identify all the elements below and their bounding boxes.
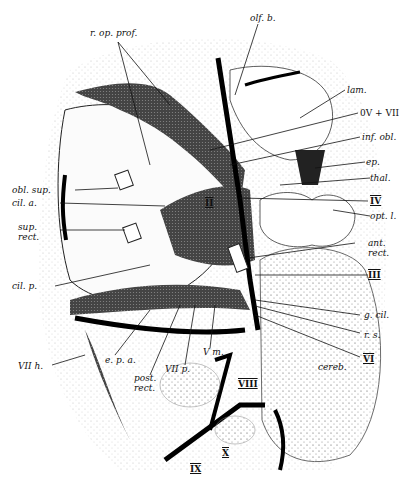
label-v-m: V m.	[203, 347, 224, 357]
anatomical-figure: r. op. prof. olf. b. lam. 0V + VII inf. …	[0, 0, 401, 479]
label-obl-sup: obl. sup.	[12, 185, 51, 195]
label-x: X	[222, 448, 229, 458]
label-opt-l: opt. l.	[370, 211, 396, 221]
label-ix: IX	[190, 464, 201, 474]
label-e-p-a: e. p. a.	[105, 355, 136, 365]
label-ant-rect: ant. rect.	[368, 238, 400, 258]
label-ov-vii: 0V + VII	[360, 108, 399, 118]
label-olf-b: olf. b.	[250, 13, 276, 23]
otic-capsule-2	[215, 416, 255, 444]
label-inf-obl: inf. obl.	[362, 132, 396, 142]
label-iii: III	[368, 270, 381, 280]
label-vii-p: VII p.	[165, 364, 190, 374]
label-lam: lam.	[347, 85, 367, 95]
label-vii-h: VII h.	[18, 361, 43, 371]
label-ii: II	[205, 198, 213, 208]
label-iv: IV	[370, 196, 381, 206]
label-vi: VI	[363, 354, 374, 364]
label-thal: thal.	[370, 173, 391, 183]
label-g-cil: g. cil.	[364, 310, 389, 320]
label-post-rect: post. rect.	[134, 373, 164, 393]
label-r-op-prof: r. op. prof.	[90, 28, 137, 38]
label-ep: ep.	[366, 157, 380, 167]
label-sup-rect: sup. rect.	[18, 222, 58, 242]
label-cil-a: cil. a.	[12, 198, 37, 208]
label-cil-p: cil. p.	[12, 281, 37, 291]
drawing	[0, 0, 401, 479]
label-cereb: cereb.	[318, 362, 347, 372]
label-r-s: r. s.	[364, 330, 381, 340]
label-viii: VIII	[238, 379, 258, 389]
